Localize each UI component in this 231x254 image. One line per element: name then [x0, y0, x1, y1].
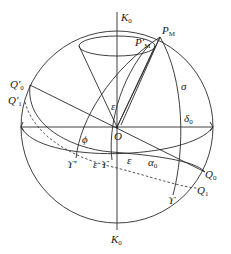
label-epsilon-mid: ε: [127, 154, 132, 166]
label-k0-bottom: K0: [110, 233, 122, 247]
label-epsilon-top: ε: [111, 100, 116, 112]
label-alpha0: α0: [148, 156, 158, 170]
label-phi: ϕ: [82, 133, 88, 145]
label-q0-prime: Q′0: [10, 78, 24, 92]
origin-point: [116, 126, 119, 129]
celestial-sphere-diagram: K0 PM P′M Q′0 Q′1 σ δ0 ε O ϕ ϒ′ ε ϒ ε α0…: [0, 0, 231, 254]
label-delta0: δ0: [184, 112, 193, 126]
label-epsilon-left: ε: [93, 158, 98, 170]
label-pm: PM: [161, 24, 176, 38]
label-q1: Q1: [197, 184, 209, 198]
label-origin: O: [114, 130, 122, 142]
label-pm-prime: P′M: [134, 36, 151, 50]
label-aries-lower: ϒ: [168, 194, 176, 206]
label-aries: ϒ: [101, 158, 109, 170]
pm-to-origin-2: [121, 37, 160, 125]
label-q1-prime: Q′1: [8, 94, 22, 108]
label-aries-prime: ϒ′: [67, 158, 77, 170]
cone-line-left: [79, 46, 117, 127]
label-sigma: σ: [181, 80, 187, 92]
label-k0-top: K0: [120, 11, 132, 25]
label-q0: Q0: [205, 168, 217, 182]
meridian-sigma: [160, 37, 181, 195]
